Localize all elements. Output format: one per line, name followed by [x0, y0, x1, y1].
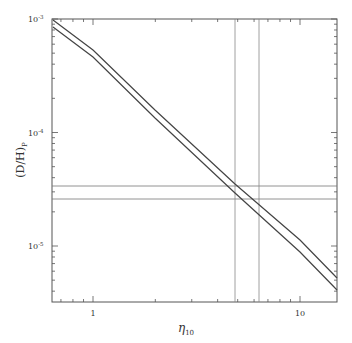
reference-lines	[52, 19, 337, 302]
lower-curve	[53, 27, 337, 290]
y-axis-label: (D/H)P	[14, 142, 29, 178]
axis-ticks	[52, 19, 337, 302]
ytick-label: 10-5	[28, 241, 44, 251]
ytick-label: 10-4	[28, 128, 44, 138]
xtick-label: 10	[295, 309, 305, 318]
ytick-label: 10-3	[28, 14, 44, 24]
x-axis-label: η10	[178, 321, 194, 337]
plot-frame	[52, 19, 337, 302]
chart: 10-3 10-4 10-5 1 10 η10 (D/H)P	[0, 0, 352, 343]
upper-curve	[53, 20, 337, 278]
xtick-label: 1	[90, 309, 95, 318]
